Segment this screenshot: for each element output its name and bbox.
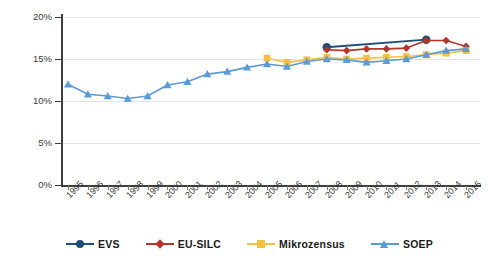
y-axis-tick — [55, 143, 61, 144]
gridline — [62, 101, 480, 102]
y-axis-label: 0% — [22, 179, 52, 190]
y-axis-tick — [55, 185, 61, 186]
legend-item-soep[interactable]: SOEP — [371, 238, 433, 250]
y-axis-labels: 0%5%10%15%20% — [18, 0, 52, 262]
y-axis-line — [61, 14, 63, 187]
y-axis-tick — [55, 17, 61, 18]
y-axis-label: 10% — [22, 95, 52, 106]
legend-swatch-icon — [371, 238, 399, 250]
gridline — [62, 17, 480, 18]
legend-item-evs[interactable]: EVS — [66, 238, 120, 250]
plot-area — [62, 17, 480, 185]
legend-swatch-icon — [146, 238, 174, 250]
y-axis-label: 15% — [22, 53, 52, 64]
line-chart: 0%5%10%15%20% 19951996199719981999200020… — [0, 0, 499, 262]
legend-label: Mikrozensus — [279, 238, 345, 250]
legend-swatch-icon — [66, 238, 94, 250]
legend-item-eu-silc[interactable]: EU-SILC — [146, 238, 221, 250]
y-axis-label: 5% — [22, 137, 52, 148]
legend-label: EU-SILC — [178, 238, 221, 250]
y-axis-tick — [55, 101, 61, 102]
legend-label: SOEP — [403, 238, 433, 250]
legend-item-mikrozensus[interactable]: Mikrozensus — [247, 238, 345, 250]
gridline — [62, 143, 480, 144]
legend-label: EVS — [98, 238, 120, 250]
gridline — [62, 59, 480, 60]
y-axis-tick — [55, 59, 61, 60]
chart-legend: EVSEU-SILCMikrozensusSOEP — [0, 233, 499, 255]
y-axis-label: 20% — [22, 11, 52, 22]
legend-swatch-icon — [247, 238, 275, 250]
